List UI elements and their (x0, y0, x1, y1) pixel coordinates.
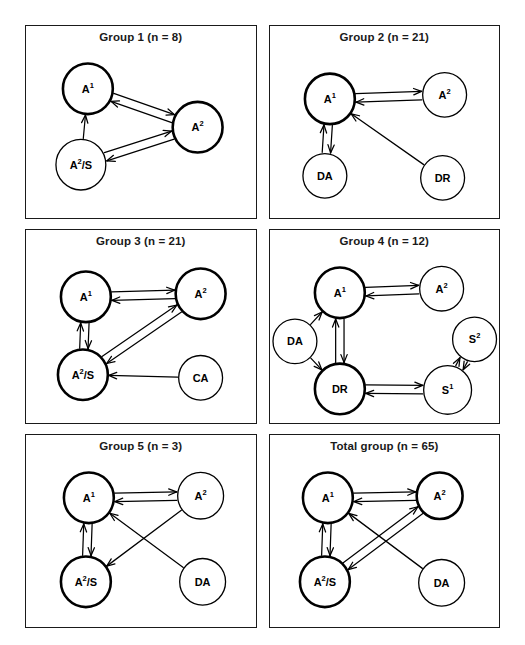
network-graph: A1A2A2/SDA (26, 435, 256, 627)
node-label: CA (193, 372, 209, 384)
node-a1[interactable]: A1 (63, 63, 113, 114)
panel-group-1: Group 1 (n = 8)A1A2A2/S (25, 25, 257, 219)
node-label: A2/S (70, 156, 92, 171)
node-a2[interactable]: A2 (416, 472, 462, 519)
node-dr[interactable]: DR (420, 156, 464, 201)
node-label: DA (433, 576, 449, 588)
network-graph: A1A2DADR (270, 26, 500, 218)
node-a1[interactable]: A1 (64, 472, 114, 523)
node-da[interactable]: DA (418, 559, 464, 606)
panel-total-group: Total group (n = 65)A1A2A2/SDA (269, 434, 501, 628)
node-a1[interactable]: A1 (304, 74, 354, 125)
node-label: A2/S (72, 366, 94, 381)
panel-group-3: Group 3 (n = 21)A1A2A2/SCA (25, 229, 257, 423)
node-ca[interactable]: CA (179, 356, 223, 401)
node-label: DA (316, 170, 332, 182)
node-label: DA (195, 575, 211, 587)
node-label: A2/S (75, 573, 97, 588)
node-a1[interactable]: A1 (314, 268, 364, 319)
network-graph: A1A2A2/S (26, 26, 256, 218)
node-a2[interactable]: A2 (176, 269, 226, 320)
node-da[interactable]: DA (180, 558, 226, 605)
node-label: DA (287, 336, 303, 348)
node-label: A2/S (313, 573, 335, 588)
node-a1[interactable]: A1 (302, 472, 352, 523)
panel-group-5: Group 5 (n = 3)A1A2A2/SDA (25, 434, 257, 628)
node-a1[interactable]: A1 (61, 272, 111, 323)
network-graph: A1A2A2/SCA (26, 230, 256, 422)
node-a2[interactable]: A2 (173, 102, 223, 153)
node-s1[interactable]: S1 (423, 366, 471, 415)
node-a2s[interactable]: A2/S (299, 556, 349, 607)
panel-group-4: Group 4 (n = 12)A1A2DADRS1S2 (269, 229, 501, 423)
node-a2s[interactable]: A2/S (56, 139, 106, 190)
network-graph: A1A2DADRS1S2 (270, 230, 500, 422)
figure-grid: Group 1 (n = 8)A1A2A2/SGroup 2 (n = 21)A… (0, 0, 525, 645)
node-a2[interactable]: A2 (422, 73, 466, 118)
node-a2s[interactable]: A2/S (61, 556, 111, 607)
node-label: DR (434, 172, 450, 184)
node-dr[interactable]: DR (314, 364, 364, 415)
node-s2[interactable]: S2 (452, 317, 496, 362)
node-a2[interactable]: A2 (178, 472, 224, 519)
node-da[interactable]: DA (302, 154, 346, 199)
node-a2s[interactable]: A2/S (58, 350, 108, 401)
panel-group-2: Group 2 (n = 21)A1A2DADR (269, 25, 501, 219)
node-label: DR (331, 383, 347, 395)
node-da[interactable]: DA (272, 319, 316, 364)
node-a2[interactable]: A2 (419, 267, 463, 312)
network-graph: A1A2A2/SDA (270, 435, 500, 627)
